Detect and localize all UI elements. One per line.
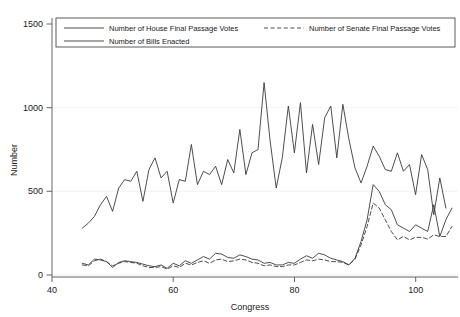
x-tick-label-40: 40	[47, 285, 57, 295]
line-chart: 1500 1000 500 0 Number 40 60 80 100 Cong…	[0, 0, 460, 317]
x-tick-label-100: 100	[408, 285, 423, 295]
legend-label-house: Number of House Final Passage Votes	[109, 24, 238, 33]
x-tick-label-60: 60	[168, 285, 178, 295]
series-bills-enacted	[82, 83, 446, 229]
gridlines	[52, 24, 458, 275]
y-tick-label-500: 500	[28, 186, 43, 196]
y-tick-label-1500: 1500	[23, 19, 43, 29]
series-layer	[82, 83, 452, 270]
legend-label-senate: Number of Senate Final Passage Votes	[309, 24, 441, 33]
series-house-votes	[82, 185, 452, 269]
series-senate-votes	[82, 203, 452, 269]
chart-container: 1500 1000 500 0 Number 40 60 80 100 Cong…	[0, 0, 460, 317]
y-tick-label-1000: 1000	[23, 103, 43, 113]
legend: Number of House Final Passage Votes Numb…	[56, 18, 455, 47]
y-axis-title: Number	[9, 144, 19, 176]
y-tick-label-0: 0	[38, 270, 43, 280]
y-axis: 1500 1000 500 0 Number	[9, 18, 52, 280]
legend-label-bills: Number of Bills Enacted	[109, 37, 189, 46]
x-tick-label-80: 80	[289, 285, 299, 295]
x-axis-title: Congress	[231, 302, 270, 312]
x-axis: 40 60 80 100 Congress	[47, 277, 458, 312]
